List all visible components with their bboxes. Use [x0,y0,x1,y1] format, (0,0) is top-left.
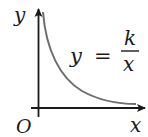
inverse-function-graph: y x O y = k x [0,0,148,137]
y-axis-label: y [13,3,26,27]
equation-denominator: x [123,52,134,76]
x-axis-label: x [130,113,141,137]
equation-equals: = [94,44,112,68]
equation-numerator: k [124,26,136,50]
origin-label: O [16,115,32,137]
equation: y = k x [69,26,139,76]
equation-lhs: y [69,44,83,68]
